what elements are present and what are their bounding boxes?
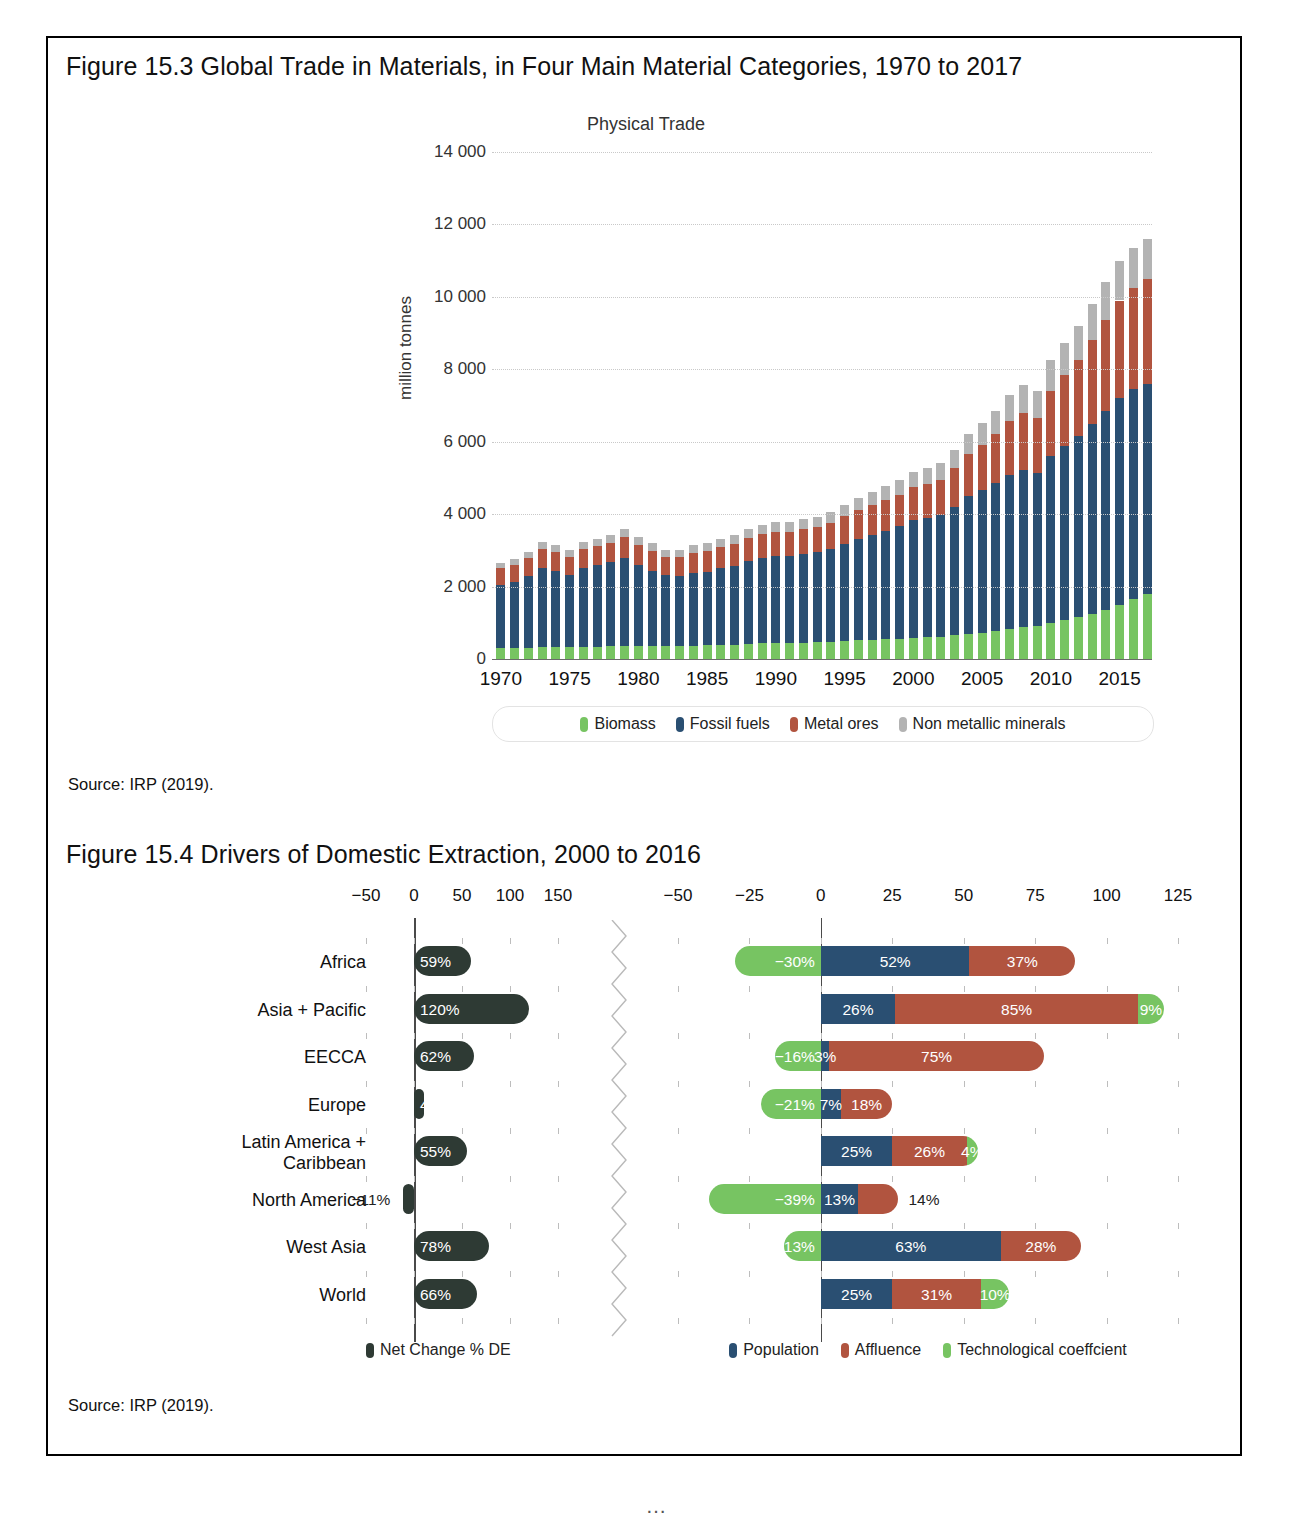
- tick-mark: [749, 1033, 750, 1039]
- bar-segment: [730, 645, 739, 659]
- bar-segment: [675, 557, 684, 575]
- segment-value-label: −16%: [775, 1048, 815, 1066]
- bar: [1074, 326, 1083, 659]
- x-tick-label: 25: [883, 886, 902, 906]
- x-tick-label: 2015: [1098, 668, 1140, 690]
- legend-item: Biomass: [580, 715, 655, 733]
- legend-item: Affluence: [841, 1341, 921, 1359]
- bar-segment: [496, 648, 505, 659]
- bar-segment: [1005, 421, 1014, 475]
- legend-marker: [943, 1343, 951, 1358]
- tick-mark: [678, 938, 679, 944]
- bar-segment: [936, 463, 945, 479]
- bar-segment: [1060, 343, 1069, 376]
- bar-segment: [950, 468, 959, 507]
- tick-mark: [1107, 938, 1108, 944]
- bar-segment: [923, 518, 932, 638]
- tick-mark: [892, 1033, 893, 1039]
- drivers-of-domestic-extraction-chart: AfricaAsia + PacificEECCAEuropeLatin Ame…: [66, 880, 1226, 1380]
- bar-segment: [771, 556, 780, 643]
- segment-value-label: 37%: [1007, 953, 1038, 971]
- bar-value-label: 55%: [420, 1143, 451, 1161]
- bar: [964, 434, 973, 659]
- x-tick-label: 0: [409, 886, 418, 906]
- legend-label: Population: [743, 1341, 819, 1359]
- tick-mark: [821, 1081, 822, 1087]
- bar-segment: [854, 539, 863, 640]
- bar-segment: [524, 648, 533, 659]
- net-change-legend: Net Change % DE: [366, 1335, 666, 1365]
- tick-mark: [678, 1128, 679, 1134]
- bar-segment: [579, 568, 588, 647]
- tick-mark: [1107, 1128, 1108, 1134]
- bar-segment: [551, 647, 560, 659]
- bar-segment: [978, 445, 987, 490]
- bar-segment: [634, 545, 643, 565]
- category-labels: AfricaAsia + PacificEECCAEuropeLatin Ame…: [66, 940, 366, 1320]
- bar-segment: [716, 645, 725, 659]
- bar-segment: [496, 585, 505, 648]
- segment-value-label: 9%: [1140, 1001, 1162, 1019]
- category-label: World: [319, 1285, 366, 1306]
- x-tick-label: 75: [1026, 886, 1045, 906]
- bar-segment: [689, 545, 698, 553]
- tick-mark: [414, 1318, 415, 1324]
- bar-segment: [978, 633, 987, 659]
- bar: [524, 552, 533, 659]
- tick-mark: [1107, 1081, 1108, 1087]
- tick-mark: [1178, 938, 1179, 944]
- bar: [675, 550, 684, 659]
- tick-mark: [821, 1271, 822, 1277]
- bar-segment: [551, 571, 560, 647]
- x-tick-label: 1990: [755, 668, 797, 690]
- tick-mark: [1178, 1081, 1179, 1087]
- tick-mark: [821, 938, 822, 944]
- bar-segment: [579, 647, 588, 659]
- tick-mark: [1035, 986, 1036, 992]
- bar-value-label: 4%: [420, 1096, 442, 1114]
- driver-segment: [858, 1184, 898, 1214]
- legend-label: Metal ores: [804, 715, 879, 733]
- bar-segment: [991, 631, 1000, 659]
- bar-segment: [799, 643, 808, 659]
- bar: [758, 525, 767, 659]
- bar-segment: [579, 549, 588, 567]
- tick-mark: [414, 1128, 415, 1134]
- bar-segment: [675, 550, 684, 557]
- tick-mark: [558, 1223, 559, 1229]
- tick-mark: [749, 986, 750, 992]
- segment-value-label: 14%: [908, 1191, 939, 1209]
- bar: [510, 559, 519, 659]
- page: Figure 15.3 Global Trade in Materials, i…: [0, 0, 1308, 1527]
- bar-segment: [565, 550, 574, 557]
- tick-mark: [462, 1223, 463, 1229]
- bar-segment: [799, 554, 808, 643]
- tick-mark: [749, 1318, 750, 1324]
- plot-area: [492, 152, 1152, 660]
- bar-segment: [1129, 599, 1138, 659]
- tick-mark: [892, 938, 893, 944]
- segment-value-label: 18%: [851, 1096, 882, 1114]
- bar-segment: [950, 635, 959, 659]
- bar-segment: [648, 571, 657, 646]
- x-tick-label: 100: [496, 886, 524, 906]
- drivers-panel: −50−25025507510012552%37%−30%26%85%9%3%7…: [678, 940, 1178, 1320]
- bar-segment: [964, 496, 973, 634]
- bar-segment: [771, 643, 780, 659]
- tick-mark: [1035, 938, 1036, 944]
- bar-segment: [538, 647, 547, 659]
- x-tick-label: 50: [453, 886, 472, 906]
- bar-segment: [510, 565, 519, 582]
- bar-segment: [634, 565, 643, 646]
- bar-segment: [551, 552, 560, 571]
- bar-segment: [1046, 623, 1055, 659]
- tick-mark: [964, 1176, 965, 1182]
- bar-segment: [1074, 326, 1083, 360]
- y-axis-ticks: 02 0004 0006 0008 00010 00012 00014 000: [396, 152, 486, 660]
- x-tick-label: 1995: [823, 668, 865, 690]
- legend-marker: [580, 717, 588, 732]
- tick-mark: [366, 1318, 367, 1324]
- tick-mark: [558, 1318, 559, 1324]
- bar-segment: [813, 552, 822, 642]
- bar: [1046, 360, 1055, 659]
